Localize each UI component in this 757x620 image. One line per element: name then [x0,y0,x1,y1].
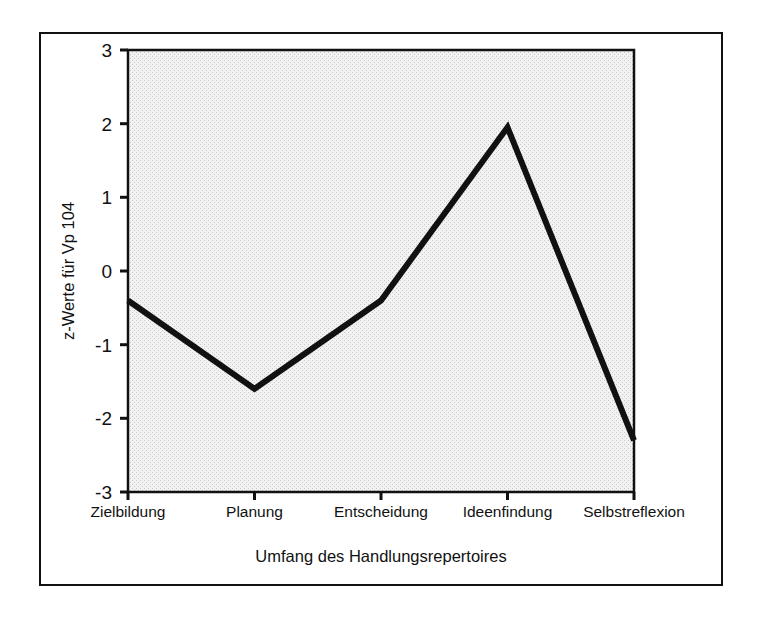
y-axis-title: z-Werte für Vp 104 [59,202,77,340]
y-tick-label: -1 [95,335,112,356]
y-tick-label: 0 [101,261,112,282]
x-tick-label: Entscheidung [334,503,428,520]
x-tick-label: Ideenfindung [463,503,553,520]
x-tick-label: Zielbildung [91,503,166,520]
line-chart: 3 2 1 0 -1 -2 -3 Zielbildung Planung Ent… [0,0,757,620]
figure-container: 3 2 1 0 -1 -2 -3 Zielbildung Planung Ent… [0,0,757,620]
x-tick-label: Selbstreflexion [583,503,685,520]
y-tick-label: -2 [95,408,112,429]
x-tick-label: Planung [226,503,283,520]
x-axis-title: Umfang des Handlungsrepertoires [255,547,506,565]
y-tick-label: 2 [101,114,112,135]
plot-area-background [128,50,634,492]
y-tick-label: 1 [101,187,112,208]
y-tick-label: 3 [101,40,112,61]
y-tick-label: -3 [95,482,112,503]
